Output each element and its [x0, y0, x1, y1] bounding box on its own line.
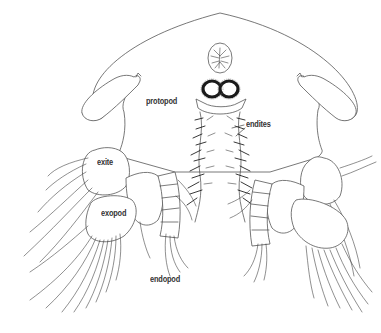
anatomy-line-drawing	[0, 0, 381, 333]
label-exopod: exopod	[101, 208, 126, 218]
label-endites: endites	[246, 119, 271, 129]
diagram-canvas: protopod endites exite exopod endopod	[0, 0, 381, 333]
right-limb	[228, 156, 376, 312]
label-endopod: endopod	[150, 274, 180, 284]
frontal-organ	[208, 43, 232, 73]
left-limb	[24, 148, 196, 312]
label-exite: exite	[97, 157, 113, 167]
label-protopod: protopod	[146, 96, 177, 106]
